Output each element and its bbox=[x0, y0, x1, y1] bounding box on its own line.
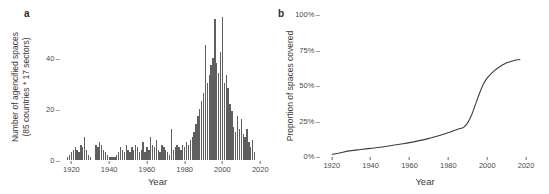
x-tick-label: 1920 bbox=[63, 160, 80, 174]
x-tick-label: 1920 bbox=[323, 156, 340, 170]
x-tick-label: 1960 bbox=[139, 160, 156, 174]
panel-b-letter: b bbox=[278, 8, 284, 19]
line-series bbox=[322, 14, 530, 156]
y-tick-label: 75%– bbox=[299, 45, 322, 54]
y-tick-label: 50%– bbox=[299, 81, 322, 90]
panel-b: b Proportion of spaces covered 0%–25%–50… bbox=[275, 0, 549, 194]
x-tick-label: 2000 bbox=[214, 160, 231, 174]
bar bbox=[254, 152, 255, 160]
y-tick-label: 20– bbox=[46, 104, 62, 113]
x-tick-label: 2020 bbox=[252, 160, 269, 174]
figure-container: a Number of agencified spaces (85 countr… bbox=[0, 0, 549, 194]
x-tick-label: 1960 bbox=[401, 156, 418, 170]
y-tick-label: 0– bbox=[50, 156, 62, 165]
x-tick-label: 1940 bbox=[362, 156, 379, 170]
panel-a-y-axis-label-line1: Number of agencified spaces bbox=[10, 12, 21, 162]
y-tick-label: 0%– bbox=[303, 152, 322, 161]
panel-a-plot-area: 0–20–40– 192019401960198020002020 bbox=[62, 14, 264, 160]
panel-a-y-axis-label: Number of agencified spaces (85 countrie… bbox=[10, 12, 31, 162]
x-tick-label: 1980 bbox=[440, 156, 457, 170]
y-tick-label: 40– bbox=[46, 53, 62, 62]
x-tick-label: 1940 bbox=[101, 160, 118, 174]
panel-b-x-axis-label: Year bbox=[315, 176, 535, 187]
bar-series bbox=[62, 14, 264, 160]
bar bbox=[90, 157, 91, 160]
panel-b-y-axis-label: Proportion of spaces covered bbox=[285, 12, 296, 160]
panel-a-y-axis-label-line2: (85 countries * 17 sectors) bbox=[21, 12, 32, 162]
panel-a-x-axis-label: Year bbox=[50, 176, 265, 187]
x-tick-label: 1980 bbox=[176, 160, 193, 174]
panel-b-plot-area: 0%–25%–50%–75%–100%– 1920194019601980200… bbox=[322, 14, 530, 156]
y-tick-label: 25%– bbox=[299, 116, 322, 125]
y-tick-label: 100%– bbox=[295, 10, 322, 19]
panel-a: a Number of agencified spaces (85 countr… bbox=[0, 0, 275, 194]
x-tick-label: 2000 bbox=[479, 156, 496, 170]
line-path bbox=[332, 59, 521, 154]
x-tick-label: 2020 bbox=[518, 156, 535, 170]
